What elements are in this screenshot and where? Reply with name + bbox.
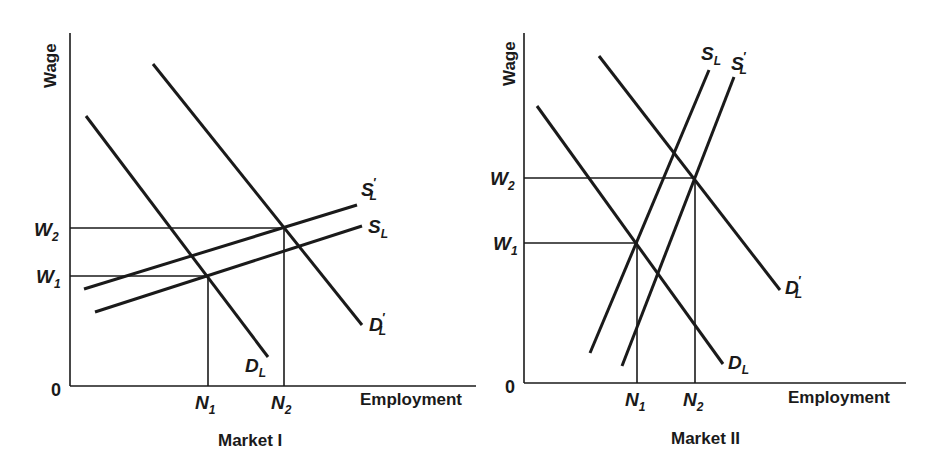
market-1-n1-label: N1: [195, 392, 216, 417]
market-1-demand-label: DL: [245, 355, 266, 380]
market-1-x-axis-label: Employment: [360, 390, 462, 409]
market-1-supply-prime-label: S′L: [361, 176, 377, 203]
market-2-y-axis-label: Wage: [500, 41, 519, 86]
market-1-demand-curve: [86, 116, 268, 357]
market-2-demand-prime-label: D′L: [785, 274, 802, 301]
market-2-demand-label: DL: [728, 352, 749, 377]
market-2-x-axis-label: Employment: [788, 388, 890, 407]
market-1-supply-label: SL: [368, 216, 388, 241]
market-1-w2-label: W2: [34, 219, 59, 244]
market-2-n1-label: N1: [625, 389, 646, 414]
market-1-w1-label: W1: [36, 266, 61, 291]
market-1-n2-label: N2: [271, 392, 292, 417]
market-2-supply-curve: [590, 70, 709, 353]
market-2-supply-prime-curve: [622, 77, 734, 366]
market-2-demand-prime-curve: [599, 56, 780, 290]
market-2-supply-prime-label: S′L: [731, 50, 747, 77]
market-2-origin-label: 0: [505, 377, 515, 397]
market-1-demand-prime-curve: [153, 64, 362, 325]
market-2-n2-label: N2: [683, 389, 704, 414]
market-2-w2-label: W2: [490, 168, 515, 193]
market-1-chart: Wage W2 W1 0 N1 N2 Employment DL D′L S′L…: [34, 33, 476, 450]
market-1-title: Market I: [218, 431, 282, 450]
labor-market-diagrams: Wage W2 W1 0 N1 N2 Employment DL D′L S′L…: [0, 0, 932, 470]
market-1-supply-curve: [95, 226, 362, 312]
market-2-w1-label: W1: [493, 233, 518, 258]
market-1-y-axis-label: Wage: [41, 43, 60, 88]
market-1-demand-prime-label: D′L: [369, 311, 386, 338]
market-1-origin-label: 0: [51, 380, 61, 400]
market-1-supply-prime-curve: [84, 205, 357, 289]
market-2-chart: Wage W2 W1 0 N1 N2 Employment DL D′L SL …: [490, 33, 906, 448]
market-2-supply-label: SL: [701, 43, 721, 68]
market-2-title: Market II: [671, 429, 740, 448]
